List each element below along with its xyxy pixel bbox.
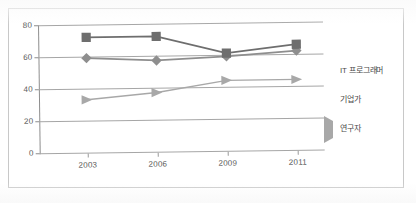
x-tick-mark-2006 — [158, 153, 159, 157]
diamond-marker-icon — [322, 63, 335, 76]
legend-item-entrepreneur: 기업가 — [322, 89, 402, 108]
x-tick-mark-2011 — [298, 151, 299, 155]
x-tick-label-2003: 2003 — [78, 160, 97, 169]
legend-label-researcher: 연구자 — [340, 122, 361, 133]
square-marker-icon — [322, 92, 335, 105]
legend-label-entrepreneur: 기업가 — [340, 93, 361, 104]
y-tick-label-60: 60 — [23, 53, 32, 62]
legend-item-researcher: 연구자 — [322, 118, 402, 137]
series-line-entrepreneur — [82, 30, 302, 60]
chart-legend: IT 프로그래머 기업가 연구자 — [322, 60, 402, 147]
y-tick-label-20: 20 — [24, 117, 33, 126]
legend-item-it-programmer: IT 프로그래머 — [322, 60, 402, 79]
y-tick-label-40: 40 — [23, 85, 32, 94]
x-tick-label-2006: 2006 — [148, 160, 167, 169]
y-tick-label-0: 0 — [29, 149, 34, 158]
x-tick-label-2011: 2011 — [289, 158, 307, 167]
x-tick-mark-2003 — [88, 154, 89, 158]
plot-area: 80 60 40 20 0 2003 2006 2009 2011 — [38, 21, 325, 153]
y-tick-label-80: 80 — [23, 21, 32, 30]
series-layer — [38, 21, 325, 154]
series-line-researcher — [81, 75, 302, 105]
x-tick-mark-2009 — [228, 152, 229, 156]
legend-label-it-programmer: IT 프로그래머 — [340, 64, 383, 75]
x-tick-label-2009: 2009 — [218, 159, 237, 168]
triangle-marker-icon — [322, 121, 335, 134]
